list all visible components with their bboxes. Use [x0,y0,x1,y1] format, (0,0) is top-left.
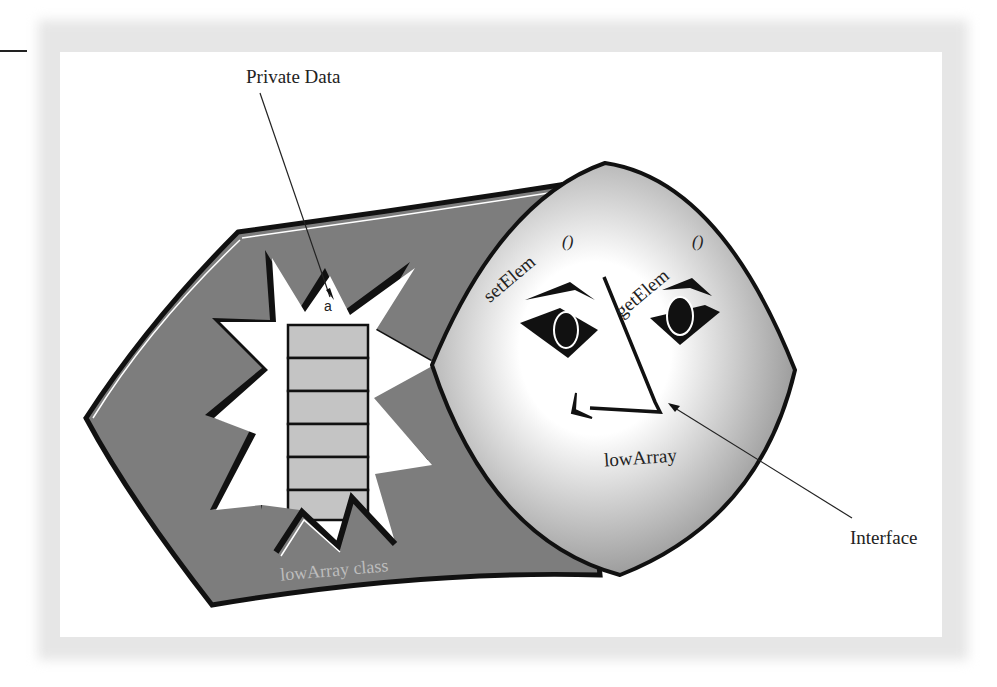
private-data-label: Private Data [246,66,340,88]
encapsulation-diagram [0,0,997,687]
array-ref-label: a [324,298,332,314]
set-elem-parens: () [562,232,573,252]
get-elem-parens: () [692,232,703,252]
interface-label: Interface [850,527,918,549]
